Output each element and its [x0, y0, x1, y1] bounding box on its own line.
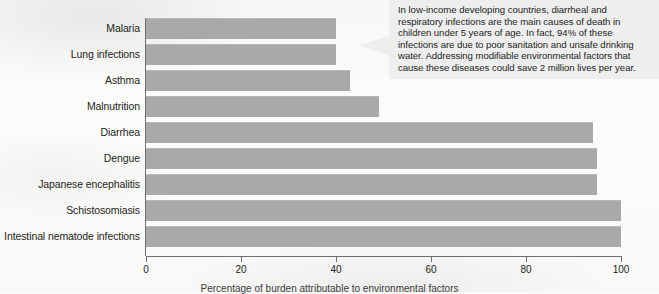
bar-malnutrition [146, 96, 379, 117]
x-axis-tick-label: 20 [235, 264, 246, 275]
callout-box: In low-income developing countries, diar… [389, 0, 659, 79]
bar-malaria [146, 18, 336, 39]
bar-lung-infections [146, 44, 336, 65]
x-axis-tick [526, 256, 527, 262]
x-axis-tick [621, 256, 622, 262]
category-label: Intestinal nematode infections [2, 231, 140, 242]
category-label: Dengue [2, 153, 140, 164]
category-label: Lung infections [2, 49, 140, 60]
x-axis-tick [336, 256, 337, 262]
bar-schistosomiasis [146, 200, 621, 221]
bar-japanese-encephalitis [146, 174, 597, 195]
bar-intestinal-nematode-infections [146, 226, 621, 247]
bar-diarrhea [146, 122, 593, 143]
category-label: Malaria [2, 23, 140, 34]
x-axis-tick [431, 256, 432, 262]
x-axis-tick-label: 60 [425, 264, 436, 275]
category-label: Diarrhea [2, 127, 140, 138]
category-label: Schistosomiasis [2, 205, 140, 216]
x-axis-tick-label: 0 [143, 264, 149, 275]
category-label: Japanese encephalitis [2, 179, 140, 190]
x-axis-tick [241, 256, 242, 262]
figure-caption: Percentage of burden attributable to env… [0, 283, 659, 294]
bar-dengue [146, 148, 597, 169]
x-axis-tick-label: 80 [520, 264, 531, 275]
x-axis-tick-label: 100 [613, 264, 630, 275]
category-axis: MalariaLung infectionsAsthmaMalnutrition… [0, 0, 140, 292]
category-label: Malnutrition [2, 101, 140, 112]
bar-asthma [146, 70, 350, 91]
x-axis-line [146, 256, 621, 257]
x-axis-tick-label: 40 [330, 264, 341, 275]
callout-pointer-triangle [358, 36, 390, 56]
category-label: Asthma [2, 75, 140, 86]
x-axis-tick [146, 256, 147, 262]
callout-text: In low-income developing countries, diar… [398, 4, 651, 73]
